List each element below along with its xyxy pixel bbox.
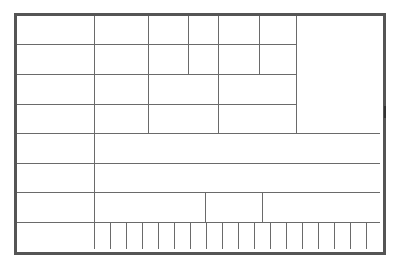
v-rule [188, 16, 189, 74]
h-rule [17, 192, 380, 193]
v-rule [158, 222, 159, 249]
v-rule [350, 222, 351, 249]
h-rule [17, 163, 380, 164]
v-rule [205, 192, 206, 222]
v-rule [302, 222, 303, 249]
h-rule [17, 104, 296, 105]
v-rule [259, 16, 260, 74]
v-rule [148, 16, 149, 133]
v-rule [110, 222, 111, 249]
v-rule [296, 16, 297, 133]
v-rule [94, 16, 95, 249]
h-rule [17, 133, 380, 134]
h-rule [17, 222, 380, 223]
v-rule [222, 222, 223, 249]
v-rule [366, 222, 367, 249]
v-rule [254, 222, 255, 249]
v-rule [334, 222, 335, 249]
v-rule [218, 16, 219, 133]
v-rule [270, 222, 271, 249]
edge-marker [384, 106, 386, 118]
v-rule [318, 222, 319, 249]
v-rule [190, 222, 191, 249]
v-rule [206, 222, 207, 249]
v-rule [238, 222, 239, 249]
table-frame [14, 13, 386, 255]
v-rule [262, 192, 263, 222]
v-rule [286, 222, 287, 249]
h-rule [17, 74, 296, 75]
v-rule [142, 222, 143, 249]
v-rule [174, 222, 175, 249]
h-rule [17, 44, 296, 45]
v-rule [126, 222, 127, 249]
